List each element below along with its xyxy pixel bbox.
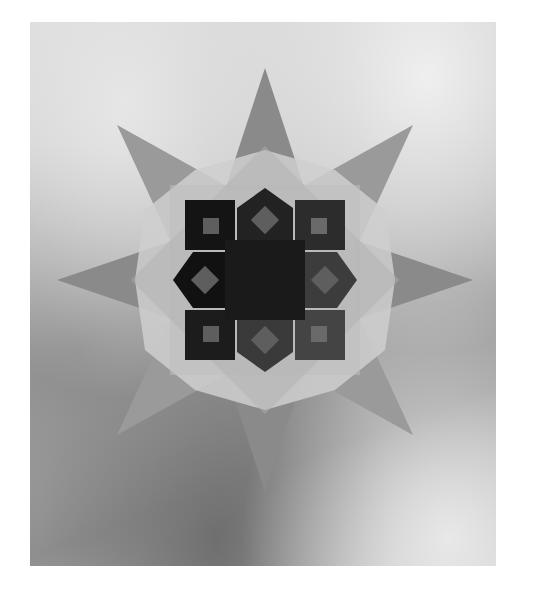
paper-star xyxy=(30,22,496,566)
photo xyxy=(30,22,496,566)
